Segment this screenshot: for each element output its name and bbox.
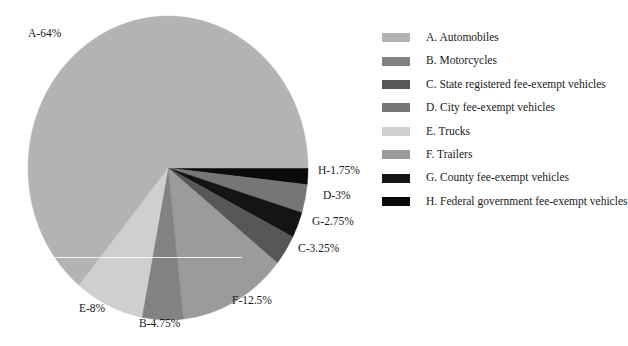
legend-item-g: G. County fee-exempt vehicles bbox=[382, 166, 614, 189]
pie-plot-area: A-64% H-1.75% D-3% G-2.75% C-3.25% F-12.… bbox=[0, 0, 375, 346]
legend-swatch-a bbox=[382, 33, 410, 42]
legend-item-a: A. Automobiles bbox=[382, 26, 614, 49]
legend-swatch-e bbox=[382, 127, 410, 136]
legend-swatch-b bbox=[382, 57, 410, 66]
legend: A. AutomobilesB. MotorcyclesC. State reg… bbox=[382, 26, 614, 213]
legend-item-e: E. Trucks bbox=[382, 120, 614, 143]
pie-slice-group bbox=[28, 16, 308, 320]
legend-swatch-d bbox=[382, 103, 410, 112]
legend-swatch-h bbox=[382, 197, 410, 206]
legend-label-c: C. State registered fee-exempt vehicles bbox=[426, 79, 606, 91]
slice-label-e: E-8% bbox=[79, 303, 105, 315]
slice-label-f: F-12.5% bbox=[232, 295, 272, 307]
slice-label-c: C-3.25% bbox=[298, 243, 339, 255]
slice-label-g: G-2.75% bbox=[312, 216, 354, 228]
legend-item-b: B. Motorcycles bbox=[382, 49, 614, 72]
legend-item-d: D. City fee-exempt vehicles bbox=[382, 96, 614, 119]
legend-item-c: C. State registered fee-exempt vehicles bbox=[382, 73, 614, 96]
slice-label-a: A-64% bbox=[28, 28, 61, 40]
legend-label-b: B. Motorcycles bbox=[426, 55, 497, 67]
legend-label-f: F. Trailers bbox=[426, 149, 472, 161]
legend-item-f: F. Trailers bbox=[382, 143, 614, 166]
legend-swatch-g bbox=[382, 174, 410, 183]
slice-label-b: B-4.75% bbox=[139, 318, 180, 330]
legend-swatch-f bbox=[382, 150, 410, 159]
slice-label-d: D-3% bbox=[323, 190, 350, 202]
legend-item-h: H. Federal government fee-exempt vehicle… bbox=[382, 190, 614, 213]
legend-label-d: D. City fee-exempt vehicles bbox=[426, 102, 555, 114]
legend-label-e: E. Trucks bbox=[426, 126, 470, 138]
legend-label-h: H. Federal government fee-exempt vehicle… bbox=[426, 196, 628, 208]
slice-label-h: H-1.75% bbox=[318, 165, 360, 177]
legend-label-a: A. Automobiles bbox=[426, 32, 499, 44]
legend-swatch-c bbox=[382, 80, 410, 89]
legend-label-g: G. County fee-exempt vehicles bbox=[426, 172, 569, 184]
